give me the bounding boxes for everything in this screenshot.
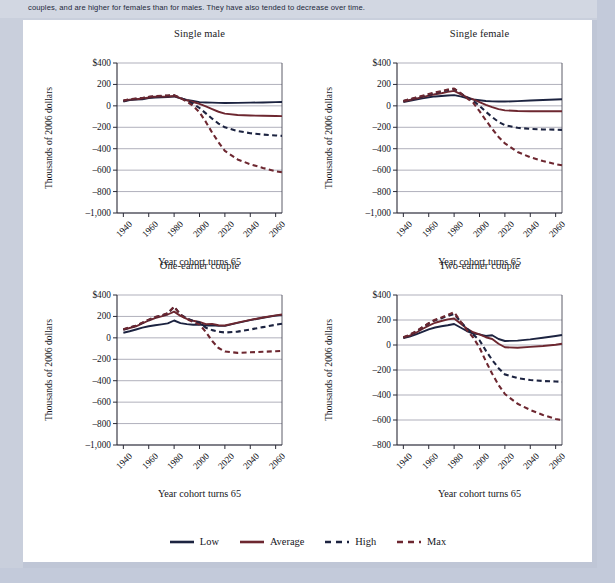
legend-item-max: Max xyxy=(396,536,446,547)
legend-swatch-dashed xyxy=(324,537,350,546)
legend-swatch-solid xyxy=(169,537,195,546)
page-bottom-margin xyxy=(0,568,615,583)
plot-canvas xyxy=(309,273,587,525)
legend-label: Average xyxy=(270,536,304,547)
plot-canvas xyxy=(309,41,587,271)
page-top-paragraph: couples, and are higher for females than… xyxy=(28,2,588,14)
series-line-max xyxy=(123,307,282,353)
legend-label: Max xyxy=(427,536,446,547)
legend-item-high: High xyxy=(324,536,376,547)
plot-canvas xyxy=(29,41,307,271)
plot-area: Thousands of 2006 dollars$4002000–200–40… xyxy=(29,273,307,525)
series-line-max xyxy=(403,312,562,420)
chart-title: Two-earner couple xyxy=(337,260,615,271)
chart-1: Single maleThousands of 2006 dollars$400… xyxy=(29,28,307,276)
chart-legend: LowAverageHighMax xyxy=(23,536,592,547)
plot-area: Thousands of 2006 dollars$4002000–200–40… xyxy=(309,41,587,271)
chart-2: Single femaleThousands of 2006 dollars$4… xyxy=(309,28,587,276)
legend-label: High xyxy=(355,536,376,547)
legend-item-low: Low xyxy=(169,536,219,547)
legend-item-average: Average xyxy=(239,536,304,547)
figure-panel: Single maleThousands of 2006 dollars$400… xyxy=(23,20,592,562)
plot-area: Thousands of 2006 dollars$4002000–200–40… xyxy=(309,273,587,525)
panel-shadow-right xyxy=(592,20,597,562)
chart-title: One-earner couple xyxy=(57,260,342,271)
legend-swatch-solid xyxy=(239,537,265,546)
legend-swatch-dashed xyxy=(396,537,422,546)
legend-label: Low xyxy=(200,536,219,547)
chart-title: Single female xyxy=(337,28,615,39)
chart-3: One-earner coupleThousands of 2006 dolla… xyxy=(29,260,307,530)
chart-title: Single male xyxy=(57,28,342,39)
series-line-average xyxy=(403,319,562,348)
plot-area: Thousands of 2006 dollars$4002000–200–40… xyxy=(29,41,307,271)
panel-shadow-bottom xyxy=(23,562,597,568)
plot-canvas xyxy=(29,273,307,525)
chart-4: Two-earner coupleThousands of 2006 dolla… xyxy=(309,260,587,530)
